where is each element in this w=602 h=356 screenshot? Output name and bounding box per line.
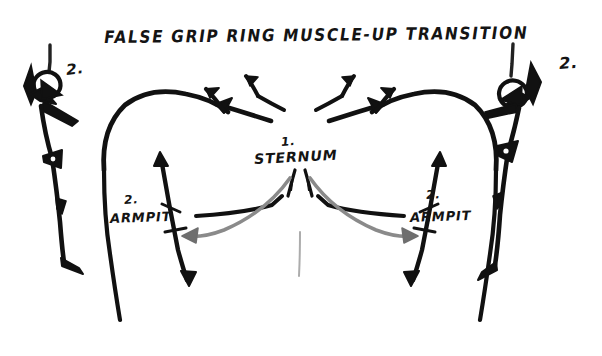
collarbone-arrows: [206, 76, 394, 121]
shoulder-arc-right: [372, 92, 496, 170]
clavicle-tip-arrow-left-body: [258, 96, 284, 110]
shoulder-arc-left: [104, 92, 228, 170]
armpit-right-label-number: 2.: [425, 188, 441, 201]
forearm-left: [41, 101, 78, 126]
shoulder-arrow-left-head: [206, 88, 219, 98]
clavicle-tip-arrow-right-head: [342, 76, 354, 86]
clavicle-tip-arrow-right-body: [316, 96, 342, 110]
page-title: FALSE GRIP RING MUSCLE-UP TRANSITION: [103, 25, 530, 46]
armpit-arrow-right-head-bottom: [404, 271, 419, 286]
sternum-to-armpit-arrow-left-head: [182, 228, 198, 243]
armpit-arrow-left-barb-lower: [165, 228, 186, 232]
pec-line-left: [196, 196, 282, 216]
body-line-left: [41, 106, 64, 262]
pec-line-right: [318, 196, 404, 216]
figure-left-group: [24, 45, 83, 274]
armpit-arrow-left-head-top: [154, 152, 168, 166]
sketch-canvas: FALSE GRIP RING MUSCLE-UP TRANSITION 1. …: [0, 0, 602, 356]
figure-right-group: [478, 44, 541, 280]
clavicle-tip-arrow-left-head: [246, 76, 258, 86]
elbow-dot-right: [503, 148, 508, 153]
armpit-left-label-text: ARMPIT: [109, 210, 172, 225]
hand-drawn-diagram: [0, 0, 602, 356]
sternum-label-number: 1.: [280, 135, 296, 148]
center-line-lower: [299, 232, 300, 276]
sternum-to-armpit-arrow-left-shaft: [186, 178, 290, 236]
elbow-dot-left: [51, 157, 56, 162]
armpit-arrow-right-head-top: [432, 152, 446, 166]
foot-left: [61, 258, 83, 274]
forearm-right: [485, 104, 517, 118]
body-line-right: [495, 108, 519, 265]
figure-right-label-number: 2.: [558, 55, 580, 72]
ring-strap-left: [49, 45, 50, 72]
ring-strap-right: [511, 44, 513, 76]
sternum-to-armpit-arrow-right-shaft: [310, 178, 414, 236]
armpit-right-label-text: ARMPIT: [409, 209, 472, 224]
armpit-arrow-right-barb-lower: [414, 228, 435, 232]
hand-wedge-left: [24, 66, 36, 104]
torso-side-right: [480, 170, 496, 320]
figure-left-label-number: 2.: [65, 61, 85, 78]
shoulder-arrow-right-head: [381, 88, 394, 98]
armpit-arrow-left-head-bottom: [181, 271, 196, 286]
armpit-left-label-number: 2.: [123, 193, 139, 206]
torso-side-left: [104, 170, 120, 320]
sternum-to-armpit-arrow-right-head: [402, 228, 418, 243]
